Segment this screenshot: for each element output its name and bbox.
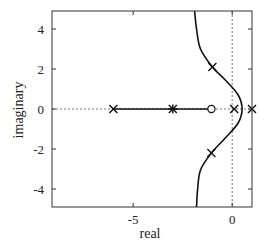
pole-x-icon <box>207 149 215 157</box>
y-tick-label: 4 <box>38 22 45 37</box>
y-tick-label: 2 <box>38 62 45 77</box>
y-axis-label: imaginary <box>11 82 26 139</box>
x-axis-ticks: -50 <box>128 11 236 227</box>
x-axis-label: real <box>140 226 161 241</box>
y-tick-label: -2 <box>33 142 44 157</box>
y-tick-label: -4 <box>33 182 44 197</box>
locus-series <box>113 11 242 207</box>
pole-star-icon <box>168 105 177 114</box>
x-tick-label: -5 <box>128 212 139 227</box>
y-tick-label: 0 <box>38 102 45 117</box>
pole-zero-markers <box>109 63 256 157</box>
x-tick-label: 0 <box>229 212 236 227</box>
zero-circle-icon <box>208 105 215 112</box>
pole-x-icon <box>208 63 216 71</box>
root-locus-chart: imaginary real 420-2-4 -50 <box>0 0 264 249</box>
